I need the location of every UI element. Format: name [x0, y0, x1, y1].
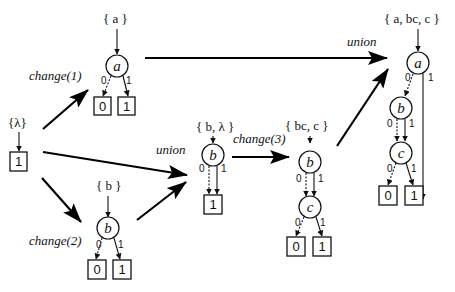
edge-label-0: 0: [387, 118, 393, 129]
set-label-lambda: {λ}: [8, 115, 27, 130]
edge-label-1: 1: [118, 239, 124, 250]
node-label: a: [113, 58, 121, 74]
edge-label-1: 1: [126, 75, 132, 86]
terminal-label: 1: [209, 197, 216, 212]
union-arrow-from-bc-c: [337, 69, 388, 146]
terminal-label: 0: [292, 239, 299, 254]
terminal-label: 0: [384, 188, 391, 203]
graph-a: { a } a 0 1 0 1: [94, 11, 135, 115]
terminal-label: 1: [118, 262, 125, 277]
edge-label-0: 0: [101, 75, 107, 86]
change3-label: change(3): [233, 131, 286, 146]
set-label-a-bc-c: { a, bc, c }: [384, 11, 440, 26]
terminal-label: 0: [99, 99, 106, 114]
node-label: c: [307, 199, 314, 215]
terminal-label: 1: [15, 154, 22, 169]
graph-bc-c: { bc, c } b 0 1 c 0 1 0 1: [285, 118, 331, 256]
terminal-label: 1: [318, 239, 325, 254]
edge-label-0: 0: [405, 72, 411, 83]
graph-b: { b } b 0 1 0 1: [88, 178, 131, 279]
graph-lambda: {λ} 1: [8, 115, 27, 171]
set-label-a: { a }: [103, 11, 128, 26]
terminal-label: 1: [123, 99, 130, 114]
graph-b-lambda: { b, λ } b 0 1 1: [196, 119, 234, 214]
edge-label-1: 1: [320, 217, 326, 228]
edge-label-0: 0: [295, 217, 301, 228]
set-label-b-lambda: { b, λ }: [196, 119, 234, 134]
node-label: b: [306, 154, 314, 170]
change1-arrow: [43, 90, 88, 129]
union-middle-label: union: [156, 142, 186, 157]
node-label: b: [397, 100, 405, 116]
edge-label-0: 0: [96, 239, 102, 250]
edge-label-1: 1: [409, 118, 415, 129]
graph-a-bc-c: { a, bc, c } a 0 1 b 0 1 c 0 1 0 1: [379, 11, 440, 205]
edge-label-1: 1: [428, 72, 434, 83]
terminal-label: 0: [93, 262, 100, 277]
change2-label: change(2): [29, 233, 82, 248]
change2-arrow: [42, 178, 81, 222]
node-label: b: [209, 147, 217, 163]
edge-label-0: 0: [296, 173, 302, 184]
operation-arrows: change(1) change(2) union change(3) unio…: [29, 34, 388, 248]
edge-label-0: 0: [387, 163, 393, 174]
union-arrow-from-b: [137, 182, 186, 220]
edge-label-1: 1: [411, 163, 417, 174]
terminal-label: 1: [410, 188, 417, 203]
change1-label: change(1): [29, 68, 82, 83]
node-label: a: [414, 55, 422, 71]
set-label-bc-c: { bc, c }: [285, 118, 329, 133]
edge-label-1: 1: [221, 163, 227, 174]
node-label: c: [398, 145, 405, 161]
node-label: b: [104, 220, 112, 236]
union-top-label: union: [347, 34, 377, 49]
edge-label-0: 0: [199, 163, 205, 174]
edge-label-1: 1: [318, 173, 324, 184]
set-label-b: { b }: [96, 178, 121, 193]
bdd-diagram: {λ} 1 { a } a 0 1 0 1 { b } b 0 1 0 1 { …: [0, 0, 455, 292]
